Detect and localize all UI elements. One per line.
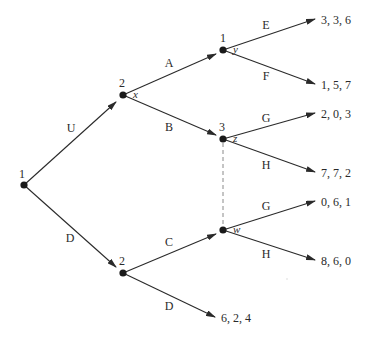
edge-label: A: [165, 56, 174, 70]
payoff-vector: 8, 6, 0: [321, 254, 351, 268]
edge-label: F: [263, 69, 270, 83]
edge-label: G: [262, 199, 271, 213]
node-variable-label: z: [232, 132, 238, 144]
payoff-labels: 3, 3, 61, 5, 72, 0, 37, 7, 20, 6, 18, 6,…: [221, 13, 351, 325]
node-d2: [119, 269, 126, 276]
edge-label: H: [262, 247, 271, 261]
payoff-vector: 3, 3, 6: [321, 13, 351, 27]
edge-label: H: [262, 158, 271, 172]
edge-label: G: [262, 111, 271, 125]
edge-label: D: [165, 299, 174, 313]
node-labels: 12x21y3zw: [19, 31, 241, 268]
edge-label: U: [67, 121, 76, 135]
player-label: 1: [220, 31, 226, 45]
node-w: [219, 226, 226, 233]
edge-label: E: [262, 18, 269, 32]
stray-mark: [286, 278, 288, 280]
player-label: 2: [119, 76, 125, 90]
player-label: 1: [19, 167, 25, 181]
payoff-vector: 1, 5, 7: [321, 78, 351, 92]
node-variable-label: w: [233, 223, 241, 235]
payoff-vector: 7, 7, 2: [321, 166, 351, 180]
edge-labels: UDABCDEFGHGH: [66, 18, 271, 313]
payoff-vector: 0, 6, 1: [321, 195, 351, 209]
node-root: [20, 181, 27, 188]
node-y: [219, 46, 226, 53]
payoff-vector: 2, 0, 3: [321, 107, 351, 121]
node-variable-label: x: [132, 88, 138, 100]
player-label: 2: [119, 254, 125, 268]
edge-root-U: [24, 102, 116, 185]
edge-root-D: [24, 185, 116, 267]
edge-label: C: [165, 235, 173, 249]
edge-label: D: [66, 231, 75, 245]
edge-label: B: [165, 120, 173, 134]
node-x: [119, 91, 126, 98]
node-z: [219, 135, 226, 142]
payoff-vector: 6, 2, 4: [221, 311, 251, 325]
game-tree-diagram: UDABCDEFGHGH 12x21y3zw 3, 3, 61, 5, 72, …: [0, 0, 368, 339]
node-variable-label: y: [232, 43, 238, 55]
player-label: 3: [219, 120, 225, 134]
